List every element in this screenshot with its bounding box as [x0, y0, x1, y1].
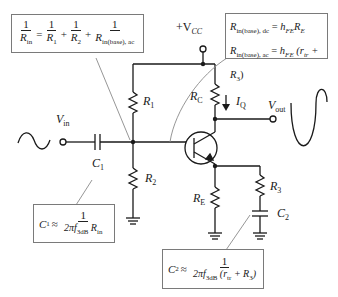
rc-resistor — [211, 84, 219, 105]
c2-label: C2 — [277, 206, 289, 222]
re-label: RE — [193, 191, 205, 207]
current-arrow — [222, 104, 230, 111]
leader-rin — [96, 58, 130, 140]
c1-label: C1 — [92, 156, 104, 172]
c1-equation-box: C1 ≈ 12πf3dB Rin — [33, 204, 115, 243]
r3-label: R3 — [270, 179, 281, 195]
rc-label: RC — [190, 89, 203, 105]
vout-terminal — [270, 116, 276, 122]
vcc-label: +VCC — [176, 20, 202, 36]
vin-label: Vin — [56, 112, 70, 128]
leader-c1 — [76, 180, 92, 205]
emitter-arrow — [206, 154, 213, 160]
r1-label: R1 — [143, 94, 154, 110]
r2-label: R2 — [145, 171, 156, 187]
leader-c2 — [226, 215, 250, 250]
rin-equation-box: 1Rin = 1R1 + 1R2 + 1Rin(base), ac — [11, 14, 144, 53]
input-sine-wave — [18, 133, 50, 149]
vout-label: Vout — [268, 98, 286, 114]
c2-equation-box: C2 ≈ 12πf3dB (rtr + R3) — [162, 249, 264, 289]
vcc-terminal — [200, 46, 206, 52]
r2-resistor — [129, 168, 137, 189]
re-resistor — [211, 187, 219, 208]
iq-label: IQ — [236, 94, 246, 110]
r3-resistor — [256, 175, 264, 196]
vin-terminal — [60, 139, 66, 145]
r1-resistor — [129, 92, 137, 113]
output-sine-wave — [291, 89, 327, 145]
rbase-equation-box: Rin(base), dc = hFERE Rin(base), ac = hF… — [225, 13, 328, 59]
